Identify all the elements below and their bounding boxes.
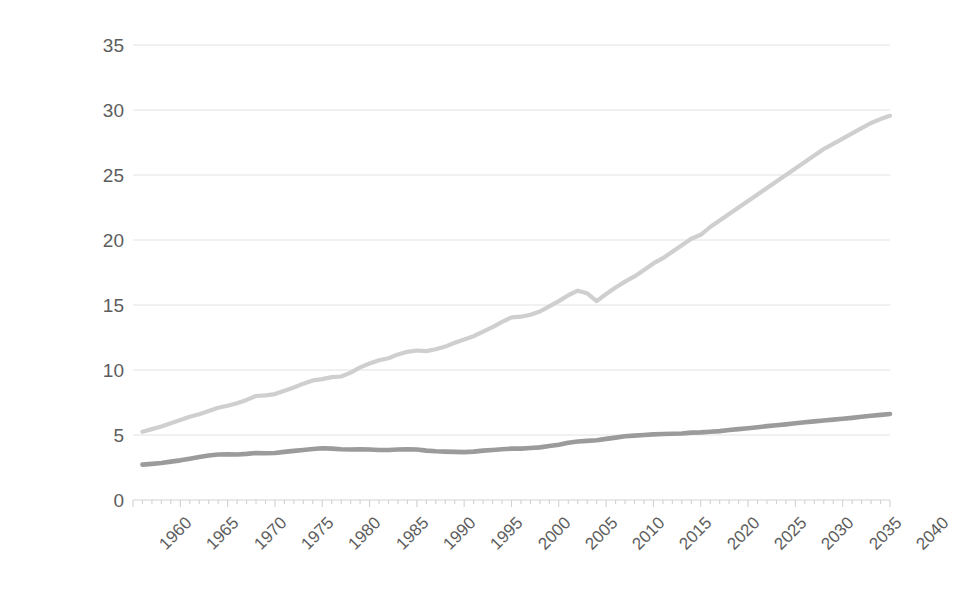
- x-axis-tick-label: 1975: [298, 514, 337, 553]
- x-axis-tick-label: 2010: [629, 514, 668, 553]
- x-axis-tick-label: 2035: [866, 514, 905, 553]
- x-axis-tick-label: 2030: [818, 514, 857, 553]
- x-axis-tick-label: 2015: [677, 514, 716, 553]
- x-axis-tick-label: 1970: [251, 514, 290, 553]
- x-axis-tick-label: 1965: [203, 514, 242, 553]
- x-axis-tick-label: 1990: [440, 514, 479, 553]
- x-axis-tick-label: 2025: [771, 514, 810, 553]
- x-axis-tick-label: 1960: [156, 514, 195, 553]
- x-axis-tick-label: 1985: [393, 514, 432, 553]
- x-axis-tick-label: 2040: [913, 514, 952, 553]
- x-axis-tick-label: 1995: [487, 514, 526, 553]
- x-axis-tick-label: 2005: [582, 514, 621, 553]
- x-axis-tick-label: 1980: [345, 514, 384, 553]
- x-axis-tick-label: 2000: [535, 514, 574, 553]
- x-axis-tick-label: 2020: [724, 514, 763, 553]
